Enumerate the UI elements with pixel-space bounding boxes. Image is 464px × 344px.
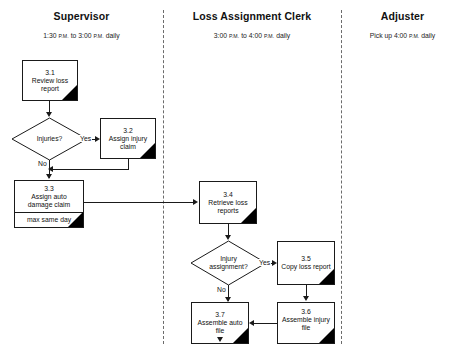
- process-box-3-4-label-line1: Retrieve loss: [208, 199, 247, 207]
- edge-label-injuries-yes: Yes: [79, 135, 92, 142]
- connector-3-3-to-3-4: [84, 202, 196, 203]
- process-box-3-3[interactable]: 3.3 Assign auto damage claim max same da…: [14, 180, 84, 228]
- process-box-3-7-number: 3.7: [215, 310, 224, 319]
- lane-schedule-loss-assignment-clerk: 3:00 P.M. to 4:00 P.M. daily: [163, 32, 341, 39]
- document-corner-icon: [68, 212, 83, 227]
- arrowhead-into-3-6: [303, 296, 309, 301]
- process-box-3-1-number: 3.1: [45, 68, 54, 77]
- process-box-3-5-number: 3.5: [301, 254, 310, 263]
- lane-schedule-supervisor-meridiem-end: P.M.: [93, 33, 103, 39]
- lane-schedule-adjuster-prefix: Pick up 4:00: [370, 32, 409, 39]
- lane-schedule-adjuster-suffix: daily: [419, 32, 435, 39]
- lane-schedule-clerk-suffix: daily: [274, 32, 290, 39]
- decision-injuries[interactable]: Injuries?: [11, 117, 88, 161]
- document-corner-icon: [319, 269, 334, 284]
- document-corner-icon: [319, 328, 334, 343]
- process-box-3-4[interactable]: 3.4 Retrieve loss reports: [199, 181, 257, 224]
- lane-schedule-supervisor-mid: to 3:00: [69, 32, 94, 39]
- document-corner-icon: [233, 328, 248, 343]
- process-box-3-6-label-line2: file: [302, 324, 311, 332]
- lane-divider-clerk-adjuster: [341, 10, 342, 344]
- process-box-3-1[interactable]: 3.1 Review loss report: [22, 60, 78, 101]
- document-corner-icon: [140, 143, 155, 158]
- lane-schedule-clerk-meridiem-end: P.M.: [264, 33, 274, 39]
- edge-label-assignment-no: No: [216, 286, 227, 293]
- lane-divider-supervisor-clerk: [163, 10, 164, 344]
- arrowhead-3-7-exit: [217, 337, 223, 342]
- connector-3-6-to-3-7: [253, 323, 278, 324]
- lane-schedule-clerk-prefix: 3:00: [214, 32, 229, 39]
- arrowhead-into-3-4: [193, 199, 198, 205]
- process-box-3-2[interactable]: 3.2 Assign injury claim: [100, 118, 156, 159]
- process-box-3-4-label-line2: reports: [217, 207, 238, 215]
- process-box-3-6[interactable]: 3.6 Assemble injury file: [277, 302, 335, 344]
- lane-schedule-supervisor-suffix: daily: [104, 32, 120, 39]
- edge-label-assignment-yes: Yes: [258, 259, 271, 266]
- edge-label-injuries-no: No: [37, 160, 48, 167]
- arrowhead-into-3-7-left: [249, 320, 254, 326]
- lane-schedule-clerk-meridiem-start: P.M.: [229, 33, 239, 39]
- lane-schedule-adjuster-meridiem-start: P.M.: [409, 33, 419, 39]
- process-box-3-5[interactable]: 3.5 Copy loss report: [277, 241, 335, 285]
- process-box-3-2-number: 3.2: [123, 126, 132, 135]
- process-box-3-6-label-line1: Assemble injury: [282, 316, 330, 324]
- process-box-3-3-label-line2: damage claim: [15, 201, 83, 209]
- lane-schedule-adjuster: Pick up 4:00 P.M. daily: [341, 32, 464, 39]
- process-box-3-4-number: 3.4: [223, 190, 232, 199]
- connector-3-2-to-no-junction: [52, 169, 129, 170]
- process-box-3-6-number: 3.6: [301, 307, 310, 316]
- lane-schedule-supervisor-prefix: 1:30: [43, 32, 58, 39]
- arrowhead-into-3-3: [46, 174, 52, 179]
- document-corner-icon: [241, 208, 256, 223]
- lane-title-adjuster: Adjuster: [341, 10, 464, 22]
- lane-schedule-supervisor: 1:30 P.M. to 3:00 P.M. daily: [0, 32, 163, 39]
- flowchart-canvas: Supervisor 1:30 P.M. to 3:00 P.M. daily …: [0, 0, 464, 344]
- lane-title-loss-assignment-clerk: Loss Assignment Clerk: [163, 10, 341, 22]
- lane-schedule-supervisor-meridiem-start: P.M.: [58, 33, 68, 39]
- process-box-3-3-number: 3.3: [15, 184, 83, 193]
- lane-schedule-clerk-mid: to 4:00: [239, 32, 264, 39]
- lane-title-supervisor: Supervisor: [0, 10, 163, 22]
- decision-injury-assignment[interactable]: Injury assignment?: [190, 240, 267, 286]
- document-corner-icon: [62, 85, 77, 100]
